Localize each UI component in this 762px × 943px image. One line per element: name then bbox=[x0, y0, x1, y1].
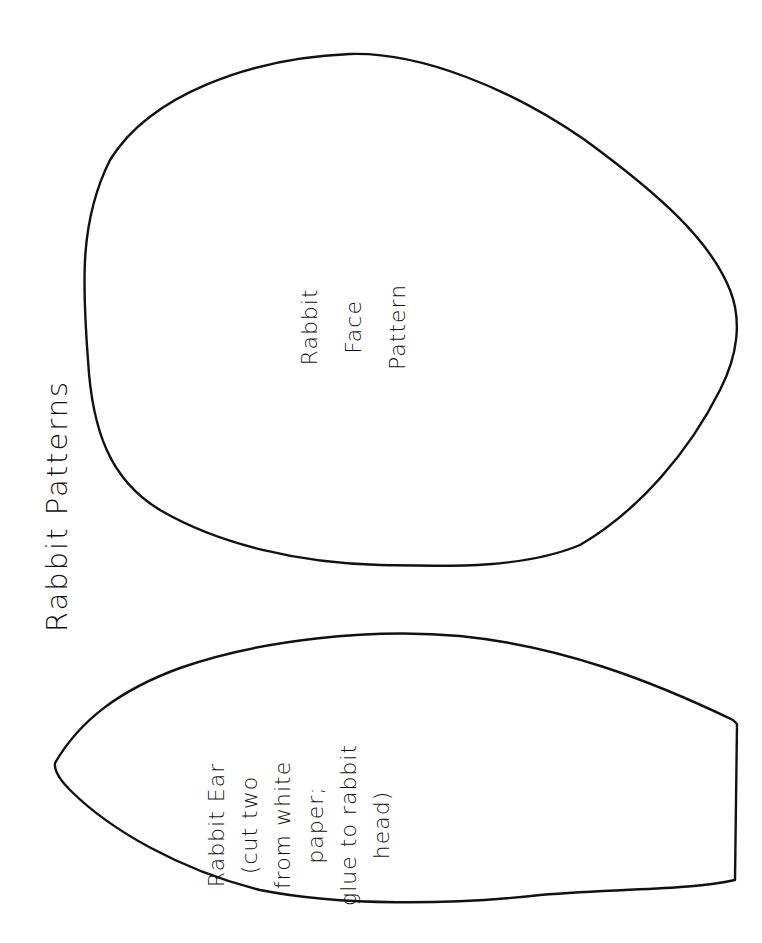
ear-label-line-4: paper; bbox=[299, 744, 332, 906]
page-title: Rabbit Patterns bbox=[40, 380, 74, 632]
face-label-line-3: Pattern bbox=[376, 284, 420, 370]
ear-label-line-2: (cut two bbox=[233, 744, 266, 906]
face-pattern-label: Rabbit Face Pattern bbox=[288, 284, 420, 370]
face-label-line-2: Face bbox=[332, 284, 376, 370]
face-label-line-1: Rabbit bbox=[288, 284, 332, 370]
ear-pattern-label: Rabbit Ear (cut two from white paper; gl… bbox=[200, 744, 398, 906]
pattern-sheet: Rabbit Patterns Rabbit Face Pattern Rabb… bbox=[0, 0, 762, 943]
ear-label-line-1: Rabbit Ear bbox=[200, 744, 233, 906]
ear-label-line-6: head) bbox=[365, 744, 398, 906]
ear-label-line-5: glue to rabbit bbox=[332, 744, 365, 906]
ear-label-line-3: from white bbox=[266, 744, 299, 906]
